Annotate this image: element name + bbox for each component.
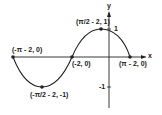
tick-label-minus-1: -1 [99, 83, 105, 91]
y-axis-arrow-icon [107, 11, 111, 17]
point-zero [70, 55, 74, 59]
label-zero-point: (-2, 0) [72, 60, 91, 68]
label-min-point: (-π/2 - 2, -1) [30, 91, 68, 99]
y-axis-label: y [107, 2, 111, 10]
x-axis-label: x [148, 52, 152, 60]
label-start-point: (-π - 2, 0) [12, 46, 42, 54]
label-end-point: (π - 2, 0) [119, 60, 147, 68]
label-max-point: (π/2 - 2, 1) [76, 18, 110, 26]
x-axis-arrow-icon [141, 55, 146, 59]
point-end [128, 55, 132, 59]
tick-label-1: 1 [114, 25, 118, 33]
point-max [99, 27, 103, 31]
point-min [40, 85, 44, 89]
point-start [11, 55, 15, 59]
